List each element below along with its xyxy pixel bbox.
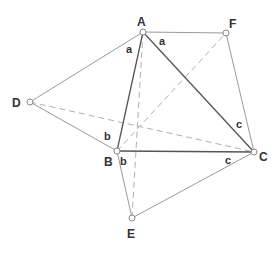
label-a-right: a [159, 35, 166, 47]
point-E [129, 215, 135, 221]
segment-FC [226, 33, 254, 152]
point-C [251, 149, 257, 155]
geometry-diagram: A F D B C E a a b b c c [0, 0, 280, 254]
point-D [27, 99, 33, 105]
point-A [140, 29, 146, 35]
label-b-lower: b [120, 155, 127, 167]
label-b-upper: b [104, 130, 111, 142]
label-C: C [259, 150, 268, 164]
points [27, 29, 257, 221]
segment-EC [132, 152, 254, 218]
outer-segments [30, 32, 254, 218]
segment-DB [30, 102, 117, 151]
dashed-DC [30, 102, 254, 152]
segment-BC [117, 151, 254, 152]
label-F: F [229, 17, 236, 31]
segment-AF [143, 32, 226, 33]
dashed-segments [30, 32, 254, 218]
main-triangle [117, 32, 254, 152]
label-E: E [127, 227, 135, 241]
label-c-upper: c [236, 118, 242, 130]
label-A: A [137, 15, 146, 29]
label-D: D [12, 96, 21, 110]
point-B [114, 148, 120, 154]
label-c-lower: c [225, 154, 231, 166]
label-B: B [104, 155, 113, 169]
segment-AC [143, 32, 254, 152]
label-a-left: a [126, 43, 133, 55]
